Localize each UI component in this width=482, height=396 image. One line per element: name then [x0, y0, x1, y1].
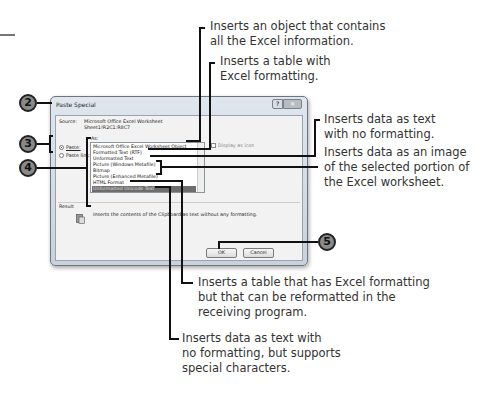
step-4-badge: 4 [19, 159, 37, 177]
leader-line [162, 166, 318, 168]
step-bracket [86, 137, 88, 207]
callout-excel-object: Inserts an object that contains all the … [210, 19, 385, 49]
clipboard-icon [76, 213, 85, 224]
callout-picture: Inserts data as an image of the selected… [324, 145, 469, 190]
callout-rtf: Inserts a table with Excel formatting. [220, 54, 331, 84]
callout-unformatted: Inserts data as text with no formatting. [324, 112, 436, 142]
paste-radio-label[interactable]: Paste: [66, 145, 81, 150]
help-button[interactable]: ? [272, 99, 283, 109]
step-2-badge: 2 [19, 94, 37, 112]
leader-line [148, 148, 211, 150]
callout-unicode: Inserts data as text with no formatting,… [182, 331, 341, 376]
leader-line [186, 140, 201, 142]
leader-line [181, 282, 193, 284]
result-label: Result [59, 204, 74, 209]
step-3-badge: 3 [19, 135, 37, 153]
display-as-icon-checkbox[interactable] [211, 143, 216, 148]
step-connector [218, 241, 220, 249]
source-label: Source: [59, 119, 77, 124]
decorative-rule [0, 34, 15, 36]
leader-bracket [156, 160, 161, 162]
step-connector [37, 143, 49, 145]
ok-button[interactable]: OK [206, 248, 237, 258]
step-connector [37, 102, 52, 104]
step-bracket [86, 205, 91, 207]
result-description: Inserts the contents of the Clipboard as… [93, 212, 257, 217]
divider [58, 202, 300, 203]
step-connector [218, 241, 318, 243]
step-bracket [49, 151, 53, 153]
leader-line [199, 27, 201, 142]
leader-line [169, 186, 171, 340]
paste-radio[interactable] [59, 145, 64, 150]
leader-line [181, 180, 183, 283]
leader-line [314, 119, 320, 121]
paste-link-radio[interactable] [59, 153, 64, 158]
step-bracket [86, 137, 91, 139]
dialog-body: Source: Microsoft Office Excel Worksheet… [55, 115, 303, 261]
leader-line [130, 180, 183, 182]
source-range: Sheet1!R2C1:R8C7 [84, 125, 130, 130]
leader-line [209, 62, 211, 150]
source-value: Microsoft Office Excel Worksheet [84, 119, 163, 124]
step-bracket [49, 135, 53, 137]
leader-line [199, 27, 205, 29]
callout-html: Inserts a table that has Excel formattin… [198, 275, 430, 320]
leader-bracket [156, 173, 161, 175]
dialog-title: Paste Special [56, 101, 96, 108]
step-5-badge: 5 [318, 233, 336, 251]
leader-line [209, 62, 215, 64]
leader-line [314, 119, 316, 157]
display-as-icon-label: Display as icon [218, 143, 254, 148]
step-connector [37, 167, 87, 169]
close-button[interactable]: ✕ [283, 99, 302, 109]
title-bar: Paste Special ? ✕ [51, 97, 307, 115]
leader-line [150, 155, 315, 157]
leader-line [169, 338, 179, 340]
cancel-button[interactable]: Cancel [243, 248, 274, 258]
as-label: As: [91, 136, 98, 141]
